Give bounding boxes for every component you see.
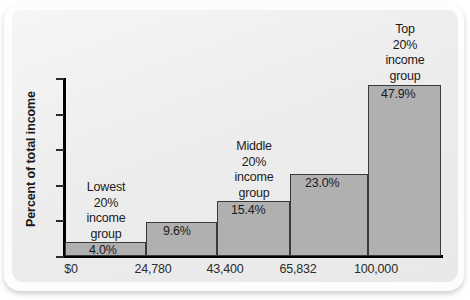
bar-value-lowest-20: 4.0%	[89, 243, 117, 257]
plot-area: 10 20 30 40 50 Percent of total income 4…	[0, 0, 470, 300]
x-tick-label-0: $0	[52, 262, 90, 276]
x-tick-label-65832: 65,832	[271, 262, 325, 276]
bar-value-second-20: 9.6%	[163, 224, 191, 238]
bar-top-20	[368, 85, 441, 256]
x-tick-label-43400: 43,400	[198, 262, 252, 276]
y-tick-mark-50	[56, 78, 64, 80]
annotation-middle-20-income-group: Middle 20% income group	[216, 139, 292, 201]
chart-figure: 10 20 30 40 50 Percent of total income 4…	[0, 0, 470, 300]
bar-value-fourth-20: 23.0%	[305, 176, 339, 190]
y-axis-line	[63, 78, 66, 258]
annotation-top-20-income-group: Top 20% income group	[367, 22, 443, 84]
y-tick-mark-30	[56, 149, 64, 151]
y-axis-title: Percent of total income	[24, 84, 38, 234]
y-tick-mark-10	[56, 220, 64, 222]
bar-value-top-20: 47.9%	[381, 87, 415, 101]
bar-value-middle-20: 15.4%	[231, 203, 265, 217]
y-tick-mark-0	[56, 256, 64, 258]
y-tick-mark-20	[56, 185, 64, 187]
x-tick-label-100000: 100,000	[345, 262, 407, 276]
annotation-lowest-20-income-group: Lowest 20% income group	[68, 180, 144, 242]
y-tick-mark-40	[56, 114, 64, 116]
x-tick-label-24780: 24,780	[126, 262, 180, 276]
